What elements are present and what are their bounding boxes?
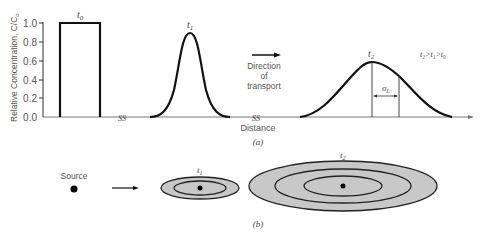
label-t1: t1 [187, 19, 193, 32]
curve-t0: t0 [60, 9, 100, 117]
label-t2: t2 [368, 48, 375, 61]
y-tick-0.8: 0.8 [23, 37, 37, 48]
x-axis-arrow-icon [468, 115, 474, 119]
source-dot [71, 186, 78, 193]
svg-text:of: of [260, 71, 268, 81]
transport-diagram: 1.0 0.8 0.6 0.4 0.2 0.0 Relative Concent… [0, 0, 482, 236]
source-label: Source [61, 171, 88, 181]
y-tick-0.4: 0.4 [23, 75, 37, 86]
x-axis-label: Distance [240, 123, 275, 133]
y-tick-0.6: 0.6 [23, 56, 37, 67]
direction-of-transport: Direction of transport [247, 53, 281, 92]
x-axis: SS SS Distance (a) [43, 114, 474, 147]
label-t0: t0 [77, 9, 84, 22]
y-tick-0.2: 0.2 [23, 93, 37, 104]
label-b-t2: t2 [340, 150, 346, 161]
axis-break-1: SS [118, 114, 126, 123]
panel-b: Source t1 t2 (b) [61, 150, 437, 229]
arrow-right-icon [133, 186, 139, 190]
y-tick-1.0: 1.0 [23, 18, 37, 29]
arrow-right-icon [274, 53, 281, 58]
curve-t1: t1 [150, 19, 230, 117]
plume-t2: t2 [249, 150, 437, 211]
time-relation: t₂>t₁>t₀ [420, 50, 446, 59]
y-tick-0.0: 0.0 [23, 112, 37, 123]
caption-b: (b) [253, 219, 264, 229]
y-axis-label: Relative Concentration, C/Co [9, 13, 20, 122]
sigma-label: σL [382, 83, 390, 94]
svg-text:transport: transport [247, 81, 281, 91]
axis-break-2: SS [252, 114, 260, 123]
plume-t1: t1 [161, 165, 239, 199]
caption-a: (a) [253, 137, 264, 147]
y-axis: 1.0 0.8 0.6 0.4 0.2 0.0 Relative Concent… [9, 13, 43, 123]
label-b-t1: t1 [197, 165, 203, 176]
svg-text:Direction: Direction [247, 61, 281, 71]
